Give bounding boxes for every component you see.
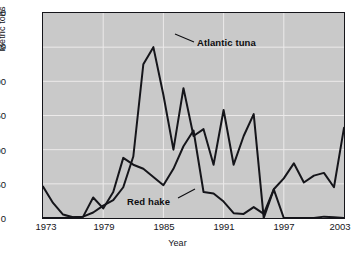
y-tick-100: 100 bbox=[0, 145, 6, 156]
x-tick-1985: 1985 bbox=[153, 221, 174, 232]
series-lines bbox=[43, 47, 344, 218]
x-tick-1973: 1973 bbox=[35, 221, 56, 232]
gridlines bbox=[43, 13, 344, 218]
annotation-atlantic-tuna: Atlantic tuna bbox=[197, 37, 256, 48]
y-tick-50: 50 bbox=[0, 179, 6, 190]
y-tick-300: 300 bbox=[0, 7, 6, 18]
x-tick-1979: 1979 bbox=[93, 221, 114, 232]
plot-area bbox=[42, 12, 345, 219]
series-line-red-hake bbox=[43, 128, 344, 218]
annotation-red-hake: Red hake bbox=[127, 196, 170, 207]
y-tick-250: 250 bbox=[0, 41, 6, 52]
x-tick-1991: 1991 bbox=[213, 221, 234, 232]
x-tick-2003: 2003 bbox=[329, 221, 350, 232]
plot-canvas bbox=[43, 13, 344, 218]
y-tick-0: 0 bbox=[0, 213, 6, 224]
x-tick-1997: 1997 bbox=[273, 221, 294, 232]
y-tick-150: 150 bbox=[0, 110, 6, 121]
chart-figure: Metric tons 300 250 200 150 100 50 0 Atl… bbox=[0, 0, 355, 256]
x-axis-title: Year bbox=[0, 238, 355, 248]
y-tick-200: 200 bbox=[0, 76, 6, 87]
